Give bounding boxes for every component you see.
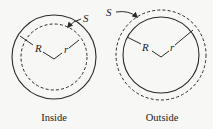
diagram-canvas: R r S Inside R r S Outside <box>0 0 213 129</box>
outside-r-line-upper <box>175 30 193 45</box>
inside-r-line-upper <box>69 40 79 48</box>
inside-S-label: S <box>83 12 89 24</box>
outside-r-label: r <box>170 41 175 53</box>
outside-S-arrow-icon <box>116 12 137 17</box>
inside-caption: Inside <box>41 112 67 123</box>
outside-caption: Outside <box>146 112 179 123</box>
outside-S-label: S <box>106 6 112 18</box>
inside-panel: R r S Inside <box>12 12 96 123</box>
inside-R-line-upper <box>20 36 33 45</box>
outside-R-line-lower <box>152 51 161 57</box>
outside-dashed-surface-S <box>116 10 206 100</box>
inside-r-line-lower <box>54 53 62 59</box>
inside-dashed-surface-S <box>21 24 87 90</box>
inside-R-line-lower <box>43 52 54 59</box>
inside-R-label: R <box>34 42 42 54</box>
outside-panel: R r S Outside <box>106 6 206 123</box>
inside-r-label: r <box>64 43 69 55</box>
outside-R-label: R <box>141 41 149 53</box>
outside-R-line-upper <box>127 37 141 44</box>
outside-solid-circle-R <box>123 17 199 93</box>
inside-solid-circle-R <box>12 15 96 99</box>
outside-r-line-lower <box>161 51 169 57</box>
